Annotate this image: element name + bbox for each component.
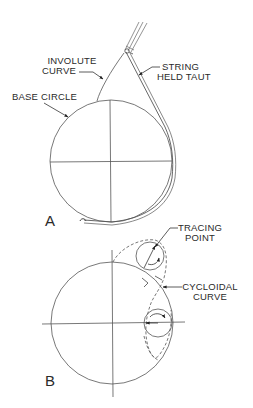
cycloidal-curve <box>113 240 171 358</box>
pencil-icon <box>125 22 147 52</box>
figure-b-letter: B <box>45 372 55 389</box>
figure-a-letter: A <box>45 212 55 229</box>
base-circle-leader <box>44 103 68 117</box>
diagram-canvas <box>0 0 253 408</box>
figure-b <box>42 228 185 397</box>
vertical-axis-b <box>112 250 113 397</box>
rotation-arrow-upper <box>148 258 159 265</box>
cycloidal-label-line2: CURVE <box>180 292 240 302</box>
rotation-arrow-lower <box>150 314 165 318</box>
figure-a <box>44 22 176 225</box>
horizontal-centerline <box>50 161 172 162</box>
tracing-label-line2: POINT <box>175 233 225 243</box>
string-anchor-icon <box>80 219 86 221</box>
base-circle-label: BASE CIRCLE <box>12 92 77 102</box>
string-held-taut-label: STRING HELD TAUT <box>157 62 211 82</box>
tracing-point-label: TRACING POINT <box>175 223 225 243</box>
string-label-line2: HELD TAUT <box>157 72 211 82</box>
involute-curve-label: INVOLUTE CURVE <box>42 56 102 76</box>
horizontal-axis-b <box>42 322 185 324</box>
pin-icon <box>125 49 129 53</box>
vertical-centerline <box>110 100 111 222</box>
cycloidal-curve-label: CYCLOIDAL CURVE <box>180 282 240 302</box>
involute-label-line2: CURVE <box>42 66 102 76</box>
